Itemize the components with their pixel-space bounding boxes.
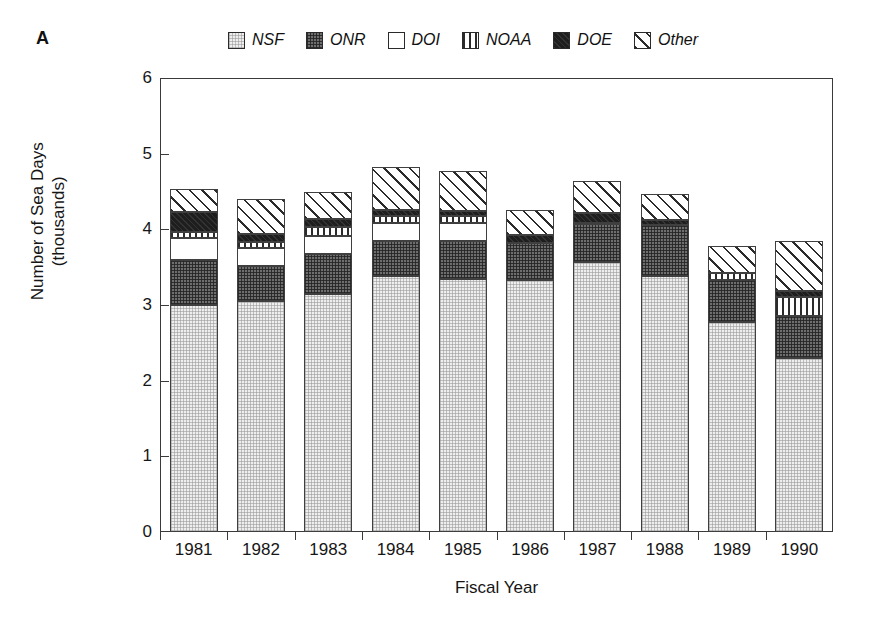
legend-label: DOI [412, 32, 440, 48]
x-tick-label: 1990 [766, 540, 833, 566]
legend-swatch-nsf-icon [228, 32, 245, 49]
y-tick-label: 4 [112, 219, 152, 239]
x-axis-title: Fiscal Year [160, 578, 833, 598]
x-tick-label: 1989 [698, 540, 765, 566]
legend-label: NOAA [486, 32, 531, 48]
x-tick-label: 1986 [496, 540, 563, 566]
x-tick-label: 1983 [295, 540, 362, 566]
legend-label: DOE [577, 32, 612, 48]
legend-entry-onr: ONR [306, 32, 366, 49]
x-tick-mark [429, 532, 430, 540]
x-tick-mark [631, 532, 632, 540]
x-tick-mark [362, 532, 363, 540]
legend-entry-doe: DOE [553, 32, 612, 49]
plot-area [160, 78, 833, 532]
legend-entry-other: Other [634, 32, 698, 49]
x-tick-label: 1981 [160, 540, 227, 566]
y-tick-label: 0 [112, 522, 152, 542]
legend-swatch-doe-icon [553, 32, 570, 49]
legend-entry-nsf: NSF [228, 32, 284, 49]
y-tick-mark [160, 305, 169, 306]
x-tick-mark [698, 532, 699, 540]
legend-label: Other [658, 32, 698, 48]
x-tick-label: 1982 [227, 540, 294, 566]
y-tick-label: 3 [112, 295, 152, 315]
x-tick-mark [295, 532, 296, 540]
x-tick-mark [160, 532, 161, 540]
legend-swatch-noaa-icon [462, 32, 479, 49]
y-tick-mark [160, 154, 169, 155]
legend-swatch-doi-icon [388, 32, 405, 49]
x-tick-mark [564, 532, 565, 540]
legend-entry-noaa: NOAA [462, 32, 531, 49]
legend-label: NSF [252, 32, 284, 48]
figure-panel-a: A NSFONRDOINOAADOEOther 0123456 Number o… [0, 0, 876, 636]
x-tick-label: 1985 [429, 540, 496, 566]
legend-label: ONR [330, 32, 366, 48]
x-tick-mark [227, 532, 228, 540]
x-tick-label: 1984 [362, 540, 429, 566]
legend-entry-doi: DOI [388, 32, 440, 49]
chart-legend: NSFONRDOINOAADOEOther [228, 28, 828, 52]
y-tick-label: 6 [112, 68, 152, 88]
y-tick-label: 5 [112, 144, 152, 164]
x-axis-tick-labels: 1981198219831984198519861987198819891990 [160, 540, 833, 566]
x-tick-mark [766, 532, 767, 540]
x-tick-mark [497, 532, 498, 540]
x-tick-label: 1987 [564, 540, 631, 566]
y-tick-mark [160, 381, 169, 382]
panel-label: A [36, 28, 50, 49]
y-tick-label: 2 [112, 371, 152, 391]
y-axis-tick-labels: 0123456 [100, 0, 152, 636]
legend-swatch-other-icon [634, 32, 651, 49]
x-tick-label: 1988 [631, 540, 698, 566]
y-tick-mark [160, 456, 169, 457]
y-axis-title: Number of Sea Days (thousands) [27, 101, 70, 341]
y-tick-label: 1 [112, 446, 152, 466]
legend-swatch-onr-icon [306, 32, 323, 49]
y-tick-mark [160, 229, 169, 230]
